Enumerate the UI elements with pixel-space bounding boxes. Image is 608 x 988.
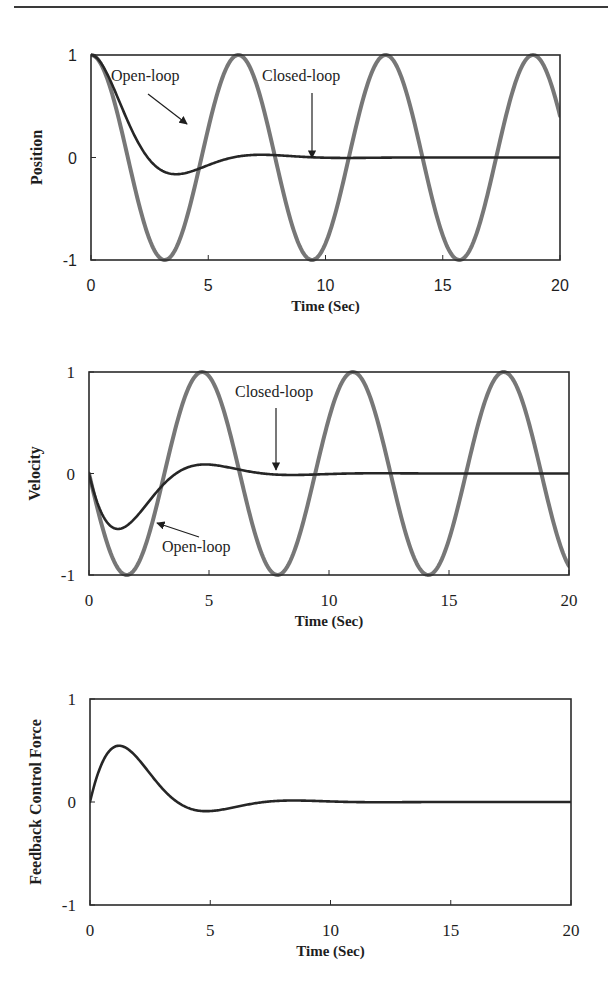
figure: 10-105101520Time (Sec)PositionOpen-loopC…	[0, 0, 608, 988]
y-tick-label: 0	[68, 793, 77, 812]
annotation-label: Open-loop	[162, 538, 230, 556]
x-axis-label: Time (Sec)	[295, 613, 363, 630]
annotation-label: Closed-loop	[262, 67, 340, 85]
x-tick-label: 0	[87, 277, 96, 294]
closed-loop-line	[89, 464, 569, 528]
y-axis-label: Position	[28, 130, 45, 185]
y-tick-label: 1	[67, 363, 76, 382]
x-tick-label: 15	[434, 277, 452, 294]
y-tick-label: 0	[68, 150, 77, 167]
x-axis-label: Time (Sec)	[296, 943, 364, 960]
x-tick-label: 5	[205, 591, 214, 610]
arrow-icon	[157, 523, 199, 537]
x-tick-label: 0	[86, 921, 95, 940]
x-tick-label: 20	[551, 277, 569, 294]
y-tick-label: 1	[68, 690, 77, 709]
x-tick-label: 5	[206, 921, 215, 940]
x-tick-label: 15	[441, 591, 458, 610]
feedback-control-force-plot: 10-105101520Time (Sec)Feedback Control F…	[27, 690, 580, 960]
annotation-label: Closed-loop	[235, 383, 313, 401]
x-tick-label: 10	[317, 277, 335, 294]
x-axis-label: Time (Sec)	[291, 298, 359, 315]
x-tick-label: 10	[322, 921, 339, 940]
x-tick-label: 20	[563, 921, 580, 940]
y-tick-label: 0	[67, 465, 76, 484]
y-tick-label: -1	[63, 252, 77, 269]
annotation-label: Open-loop	[111, 67, 179, 85]
x-tick-label: 0	[85, 591, 94, 610]
y-tick-label: -1	[62, 896, 76, 915]
arrow-icon	[148, 94, 187, 124]
closed-loop-control-force-line	[90, 746, 571, 811]
x-tick-label: 15	[442, 921, 459, 940]
x-tick-label: 10	[321, 591, 338, 610]
y-axis-label: Feedback Control Force	[27, 719, 44, 885]
velocity-plot: 10-105101520Time (Sec)VelocityClosed-loo…	[26, 363, 578, 630]
figure-caption	[22, 974, 582, 988]
y-tick-label: -1	[61, 566, 75, 585]
x-tick-label: 20	[561, 591, 578, 610]
x-tick-label: 5	[204, 277, 213, 294]
y-tick-label: 1	[68, 47, 77, 64]
y-axis-label: Velocity	[26, 446, 44, 501]
position-plot: 10-105101520Time (Sec)PositionOpen-loopC…	[28, 47, 569, 315]
